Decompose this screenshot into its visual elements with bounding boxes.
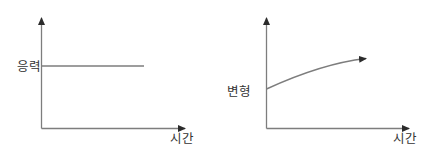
- graphs-canvas: 응력 시간 변형 시간: [0, 0, 431, 160]
- x-axis-label: 시간: [170, 131, 194, 146]
- strain-time-graph: 변형 시간: [227, 18, 417, 146]
- stress-time-graph: 응력 시간: [17, 18, 194, 146]
- y-axis-label: 변형: [227, 84, 251, 99]
- x-axis-label: 시간: [393, 131, 417, 146]
- strain-curve: [267, 59, 367, 90]
- creep-diagram: 응력 시간 변형 시간: [0, 0, 431, 160]
- y-axis-label: 응력: [17, 59, 41, 74]
